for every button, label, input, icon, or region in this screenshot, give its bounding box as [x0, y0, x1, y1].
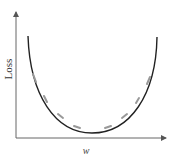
loss-diagram [0, 0, 172, 160]
loss-curve [28, 36, 157, 133]
gradient-steps-left [33, 74, 80, 128]
x-axis-label: w [80, 145, 92, 156]
y-axis-label: Loss [1, 57, 15, 81]
